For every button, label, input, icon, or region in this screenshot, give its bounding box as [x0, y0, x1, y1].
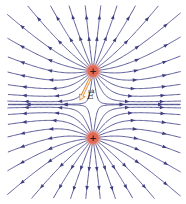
field-arrow-icon	[160, 94, 165, 98]
field-arrow-icon	[131, 118, 136, 122]
field-line	[97, 6, 136, 66]
field-arrow-icon	[134, 57, 140, 62]
field-arrow-icon	[128, 94, 133, 98]
field-line	[99, 37, 181, 70]
field-arrow-icon	[68, 37, 74, 43]
electric-field-diagram: ++ E	[0, 0, 186, 204]
field-line	[95, 107, 181, 132]
field-arrow-icon	[126, 15, 131, 21]
field-arrow-icon	[87, 36, 91, 41]
field-line	[98, 120, 181, 134]
field-arrow-icon	[54, 111, 59, 115]
field-arrow-icon	[24, 100, 29, 104]
field-arrow-icon	[97, 186, 101, 191]
field-line	[8, 38, 88, 70]
plus-sign-icon: +	[89, 66, 97, 76]
field-arrow-icon	[125, 100, 130, 104]
field-arrow-icon	[54, 94, 59, 98]
field-line	[7, 14, 87, 68]
field-line	[94, 6, 101, 66]
field-arrow-icon	[58, 106, 63, 110]
field-arrow-icon	[58, 99, 63, 103]
field-arrow-icon	[19, 60, 25, 65]
field-arrow-icon	[22, 112, 27, 116]
field-line	[98, 142, 155, 199]
field-arrow-icon	[111, 14, 116, 20]
field-arrow-icon	[79, 166, 84, 172]
field-arrow-icon	[162, 59, 168, 64]
field-arrow-icon	[52, 87, 57, 91]
field-arrow-icon	[103, 36, 108, 42]
field-arrow-icon	[113, 37, 119, 43]
field-arrow-icon	[69, 165, 75, 171]
field-arrow-icon	[162, 145, 168, 150]
field-arrow-icon	[163, 161, 169, 166]
lower-charge: +	[85, 130, 102, 147]
field-line	[32, 142, 89, 199]
field-arrow-icon	[123, 184, 128, 190]
field-line	[95, 77, 181, 102]
field-line	[95, 6, 117, 66]
field-arrow-icon	[19, 144, 25, 149]
field-arrow-icon	[95, 167, 99, 172]
field-arrow-icon	[160, 106, 165, 110]
field-arrow-icon	[162, 120, 167, 124]
field-arrow-icon	[78, 36, 83, 42]
field-arrow-icon	[19, 160, 25, 165]
field-arrow-icon	[52, 119, 57, 123]
field-line	[98, 75, 181, 89]
field-line	[7, 107, 90, 132]
field-line	[7, 140, 87, 194]
field-arrow-icon	[84, 15, 88, 20]
plus-sign-icon: +	[89, 133, 97, 143]
field-arrow-icon	[87, 167, 91, 172]
field-arrow-icon	[134, 147, 140, 152]
field-arrow-icon	[71, 186, 76, 192]
field-line	[99, 139, 181, 172]
field-arrow-icon	[47, 146, 53, 151]
field-line	[53, 143, 89, 198]
field-line	[94, 144, 101, 199]
field-lines: ++	[0, 0, 186, 204]
field-line	[51, 6, 90, 66]
field-arrow-icon	[49, 127, 54, 131]
field-arrow-icon	[128, 111, 133, 115]
field-arrow-icon	[131, 87, 136, 91]
field-line	[8, 75, 88, 89]
field-arrow-icon	[133, 78, 138, 82]
field-line	[86, 144, 93, 199]
field-arrow-icon	[70, 14, 75, 20]
field-arrow-icon	[22, 85, 27, 89]
field-line	[7, 77, 90, 102]
field-line	[97, 143, 133, 198]
field-arrow-icon	[55, 15, 60, 21]
field-arrow-icon	[22, 94, 27, 98]
field-arrow-icon	[22, 120, 27, 124]
field-arrow-icon	[19, 44, 25, 49]
field-arrow-icon	[163, 42, 169, 47]
field-line	[8, 120, 88, 134]
field-arrow-icon	[103, 166, 108, 172]
field-arrow-icon	[133, 127, 138, 131]
field-line	[95, 144, 115, 199]
field-line	[85, 6, 92, 66]
field-arrow-icon	[125, 106, 130, 110]
field-line	[69, 6, 91, 66]
field-arrow-icon	[160, 100, 165, 104]
field-arrow-icon	[47, 58, 53, 63]
field-arrow-icon	[24, 106, 29, 110]
field-vector-label: E	[87, 90, 94, 101]
field-arrow-icon	[111, 165, 117, 171]
field-arrow-icon	[110, 186, 115, 192]
field-line	[8, 139, 88, 171]
field-arrow-icon	[57, 184, 62, 190]
field-arrow-icon	[97, 15, 101, 20]
upper-charge: +	[85, 63, 102, 80]
field-arrow-icon	[49, 78, 54, 82]
field-arrow-icon	[162, 85, 167, 89]
field-arrow-icon	[95, 36, 99, 41]
field-arrow-icon	[85, 186, 89, 191]
field-line	[71, 144, 91, 199]
field-arrow-icon	[160, 112, 165, 116]
